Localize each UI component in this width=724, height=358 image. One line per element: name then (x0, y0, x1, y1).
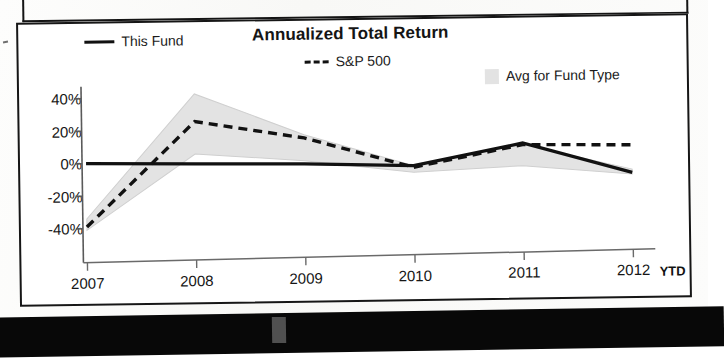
page-bottom-notch (272, 317, 286, 343)
plot-canvas (16, 13, 688, 302)
y-axis-line (81, 87, 83, 263)
annualized-total-return-chart: Annualized Total Return This Fund S&P 50… (16, 13, 688, 302)
x-axis-line (83, 249, 655, 263)
band-avg-for-fund-type (85, 88, 633, 230)
